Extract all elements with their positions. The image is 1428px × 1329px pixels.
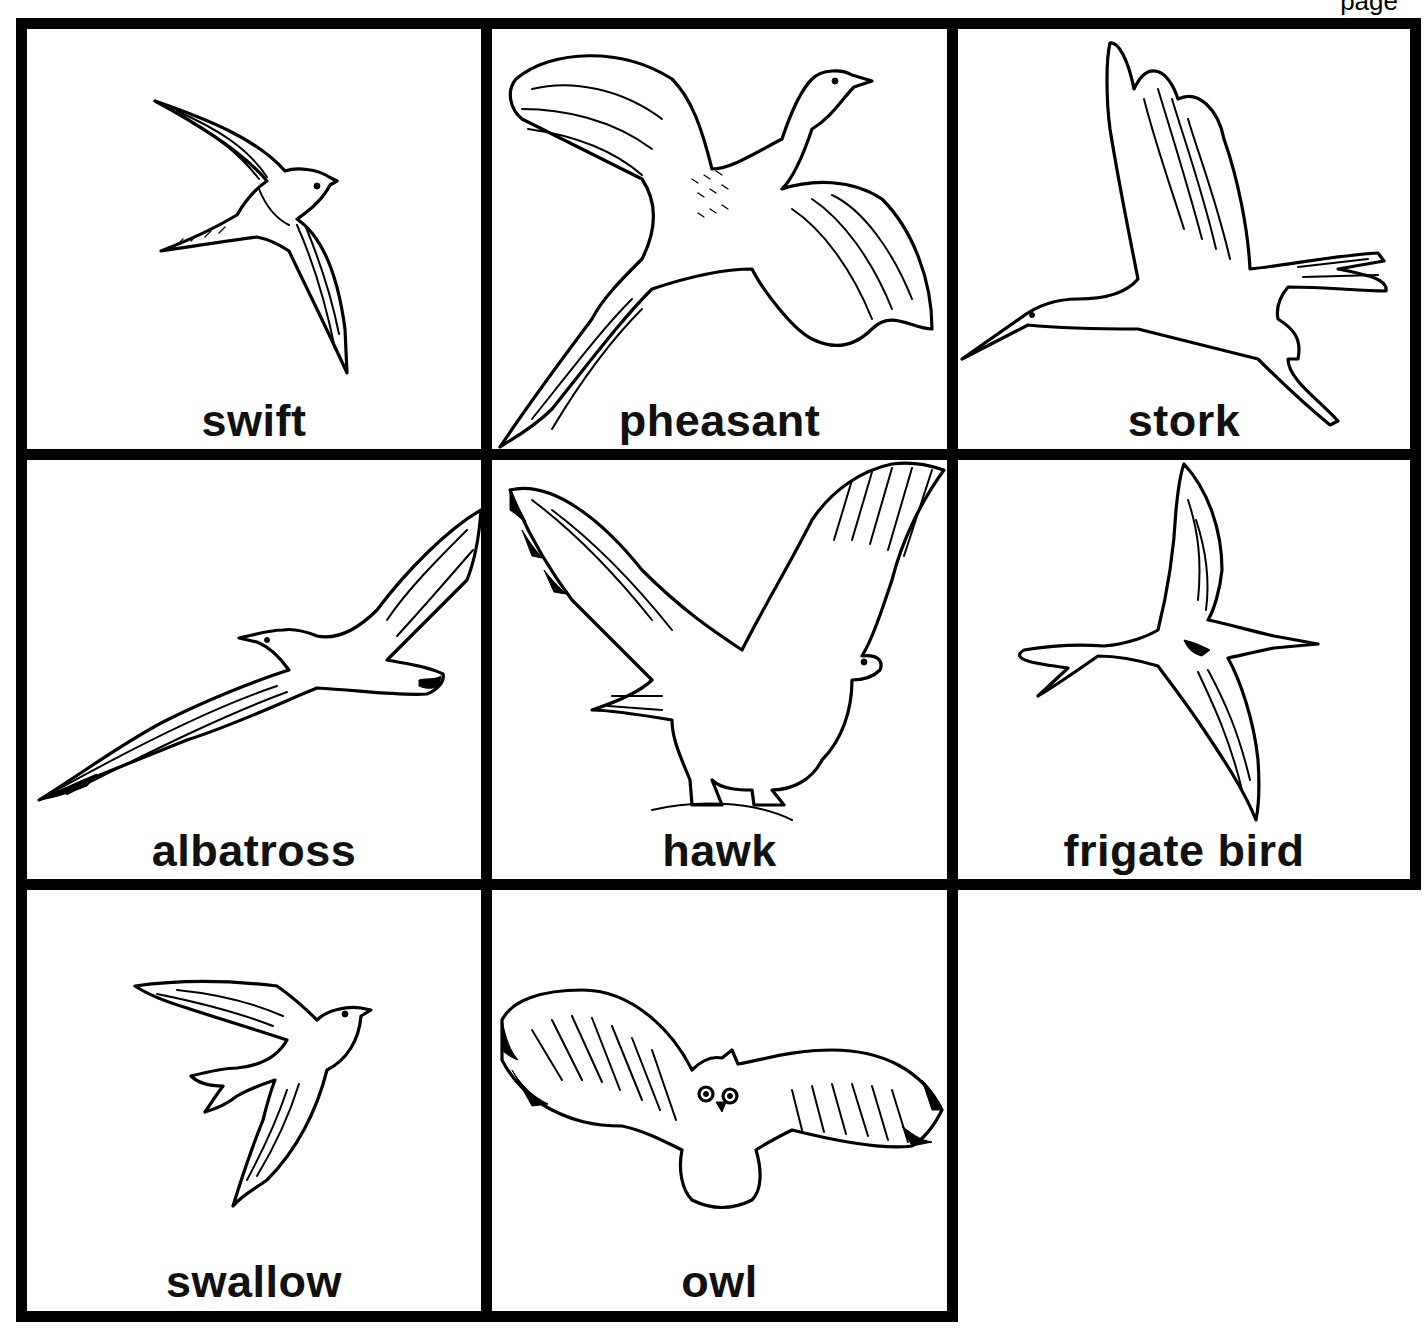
card-owl: owl: [481, 879, 958, 1322]
swallow-illustration: [27, 890, 481, 1311]
card-label-owl: owl: [492, 1256, 947, 1308]
hawk-illustration: [492, 460, 947, 879]
card-label-albatross: albatross: [27, 825, 481, 877]
frigate-bird-illustration: [958, 460, 1410, 879]
swift-illustration: [27, 29, 481, 449]
pheasant-illustration: [492, 29, 947, 449]
stork-illustration: [958, 29, 1410, 449]
card-frigate-bird: frigate bird: [947, 449, 1421, 890]
card-label-hawk: hawk: [492, 825, 947, 877]
card-swift: swift: [16, 18, 492, 460]
card-label-swift: swift: [27, 395, 481, 447]
owl-illustration: [492, 890, 947, 1311]
card-albatross: albatross: [16, 449, 492, 890]
card-pheasant: pheasant: [481, 18, 958, 460]
albatross-illustration: [27, 460, 481, 879]
card-hawk: hawk: [481, 449, 958, 890]
card-label-stork: stork: [958, 395, 1410, 447]
page-number-label: page: [1340, 0, 1398, 17]
card-label-pheasant: pheasant: [492, 395, 947, 447]
card-label-swallow: swallow: [27, 1256, 481, 1308]
card-label-frigate-bird: frigate bird: [958, 825, 1410, 877]
card-swallow: swallow: [16, 879, 492, 1322]
card-stork: stork: [947, 18, 1421, 460]
